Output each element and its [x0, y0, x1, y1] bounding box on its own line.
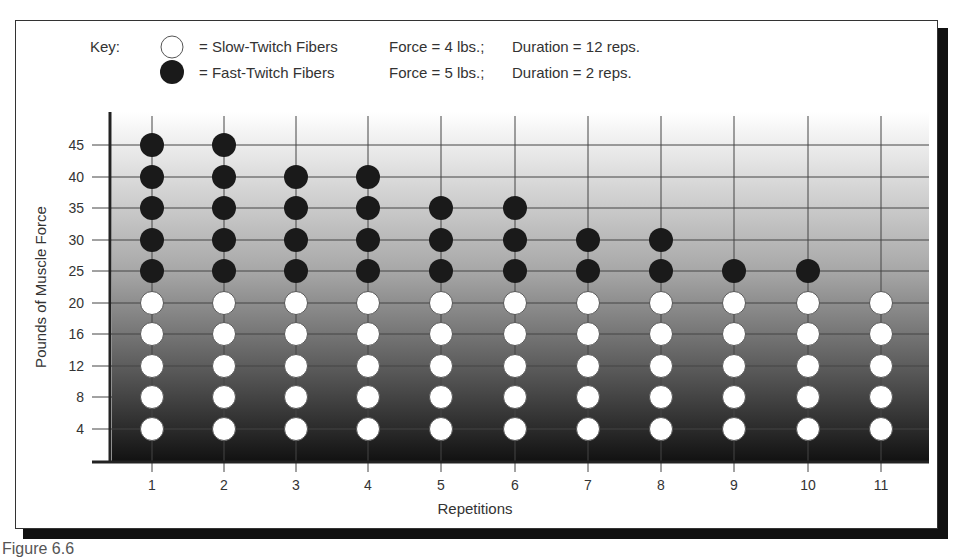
slow-twitch-point [797, 355, 820, 378]
slow-twitch-point [213, 323, 236, 346]
slow-twitch-point [870, 292, 893, 315]
fast-twitch-point [140, 133, 164, 157]
slow-twitch-point [870, 323, 893, 346]
plot-background [112, 112, 929, 462]
legend-slow-text: = Slow-Twitch Fibers [199, 38, 338, 55]
slow-twitch-point [504, 355, 527, 378]
slow-twitch-point [141, 386, 164, 409]
fast-twitch-point [796, 259, 820, 283]
x-tick-label: 6 [511, 477, 519, 493]
y-tick-label: 20 [68, 295, 84, 311]
x-tick-label: 7 [584, 477, 592, 493]
slow-twitch-icon [161, 36, 183, 58]
slow-twitch-point [357, 292, 380, 315]
x-tick-label: 1 [148, 477, 156, 493]
fast-twitch-point [140, 165, 164, 189]
legend: Key: = Slow-Twitch Fibers Force = 4 lbs.… [90, 36, 640, 84]
fast-twitch-point [284, 196, 308, 220]
fast-twitch-point [649, 259, 673, 283]
y-tick-label: 25 [68, 263, 84, 279]
slow-twitch-point [504, 418, 527, 441]
fast-twitch-point [356, 228, 380, 252]
x-tick-label: 2 [220, 477, 228, 493]
x-tick-label: 11 [874, 477, 889, 493]
y-tick-labels: 481216202530354045 [68, 137, 84, 437]
slow-twitch-point [430, 418, 453, 441]
fast-twitch-point [356, 165, 380, 189]
legend-slow-force: Force = 4 lbs.; [389, 38, 484, 55]
slow-twitch-point [430, 386, 453, 409]
slow-twitch-point [650, 323, 673, 346]
slow-twitch-point [357, 355, 380, 378]
slow-twitch-point [797, 386, 820, 409]
slow-twitch-point [504, 386, 527, 409]
legend-fast-force: Force = 5 lbs.; [389, 64, 484, 81]
slow-twitch-point [285, 355, 308, 378]
slow-twitch-point [870, 386, 893, 409]
slow-twitch-point [577, 386, 600, 409]
fast-twitch-point [212, 165, 236, 189]
legend-key-label: Key: [90, 38, 120, 55]
slow-twitch-point [870, 418, 893, 441]
slow-twitch-point [357, 386, 380, 409]
legend-fast-text: = Fast-Twitch Fibers [199, 64, 334, 81]
fast-twitch-point [503, 259, 527, 283]
legend-fast-duration: Duration = 2 reps. [512, 64, 632, 81]
y-tick-label: 30 [68, 232, 84, 248]
slow-twitch-point [430, 323, 453, 346]
slow-twitch-point [723, 323, 746, 346]
slow-twitch-point [141, 323, 164, 346]
slow-twitch-point [141, 355, 164, 378]
fast-twitch-point [576, 228, 600, 252]
fast-twitch-point [140, 259, 164, 283]
slow-twitch-point [285, 323, 308, 346]
slow-twitch-point [723, 292, 746, 315]
fast-twitch-point [212, 228, 236, 252]
x-tick-label: 3 [292, 477, 300, 493]
slow-twitch-point [213, 292, 236, 315]
slow-twitch-point [650, 386, 673, 409]
slow-twitch-point [430, 292, 453, 315]
slow-twitch-point [870, 355, 893, 378]
y-tick-label: 4 [76, 421, 84, 437]
x-axis-title: Repetitions [437, 500, 512, 517]
y-tick-label: 45 [68, 137, 84, 153]
x-tick-label: 10 [800, 477, 816, 493]
slow-twitch-point [357, 418, 380, 441]
slow-twitch-point [723, 418, 746, 441]
slow-twitch-point [285, 386, 308, 409]
slow-twitch-point [650, 292, 673, 315]
fast-twitch-point [284, 165, 308, 189]
fast-twitch-icon [160, 60, 184, 84]
fast-twitch-point [649, 228, 673, 252]
slow-twitch-point [285, 418, 308, 441]
slow-twitch-point [213, 386, 236, 409]
fast-twitch-point [140, 228, 164, 252]
fast-twitch-point [429, 228, 453, 252]
fast-twitch-point [284, 259, 308, 283]
slow-twitch-point [723, 386, 746, 409]
slow-twitch-point [723, 355, 746, 378]
slow-twitch-point [797, 292, 820, 315]
slow-twitch-point [577, 418, 600, 441]
fast-twitch-point [212, 196, 236, 220]
y-tick-label: 35 [68, 200, 84, 216]
fast-twitch-point [212, 133, 236, 157]
slow-twitch-point [357, 323, 380, 346]
fast-twitch-point [212, 259, 236, 283]
x-tick-label: 9 [730, 477, 738, 493]
slow-twitch-point [797, 323, 820, 346]
y-tick-label: 16 [68, 326, 84, 342]
slow-twitch-point [504, 323, 527, 346]
slow-twitch-point [650, 418, 673, 441]
y-tick-label: 40 [68, 169, 84, 185]
x-tick-label: 5 [437, 477, 445, 493]
fast-twitch-point [356, 196, 380, 220]
fast-twitch-point [576, 259, 600, 283]
slow-twitch-point [577, 323, 600, 346]
fast-twitch-point [140, 196, 164, 220]
slow-twitch-point [577, 292, 600, 315]
slow-twitch-point [141, 292, 164, 315]
x-tick-labels: 1234567891011 [148, 477, 888, 493]
